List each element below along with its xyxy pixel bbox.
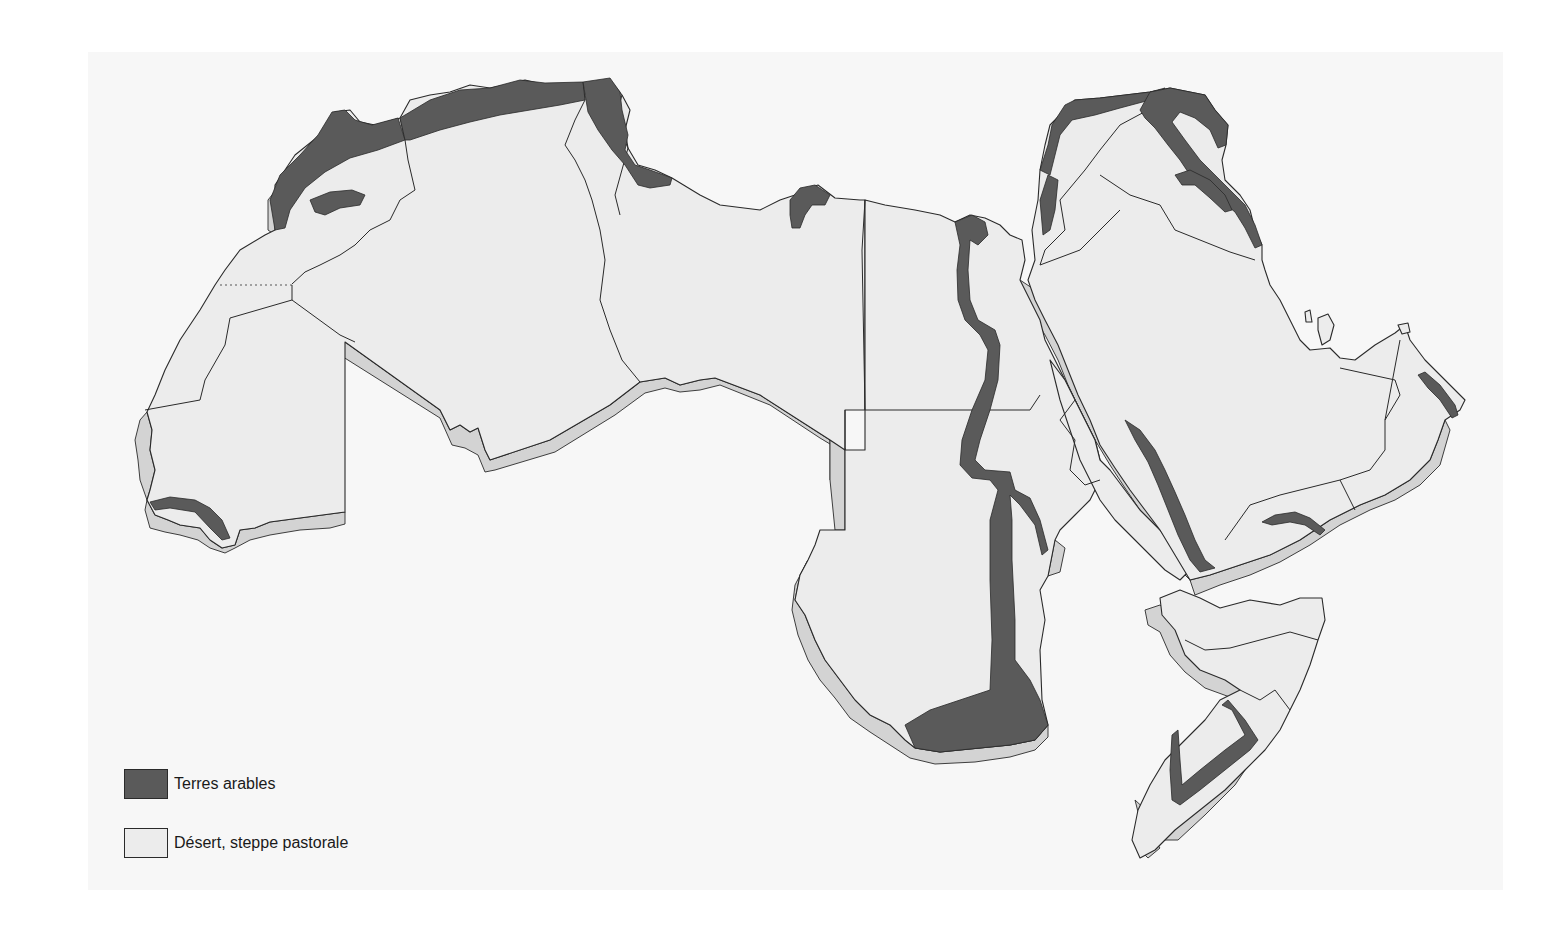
legend: Terres arables Désert, steppe pastorale xyxy=(124,768,348,886)
desert-swatch xyxy=(124,828,168,858)
legend-label-desert: Désert, steppe pastorale xyxy=(174,834,348,852)
region-maghreb xyxy=(147,80,865,548)
arable-swatch xyxy=(124,769,168,799)
legend-label-arable: Terres arables xyxy=(174,775,275,793)
legend-item-desert: Désert, steppe pastorale xyxy=(124,827,348,859)
region-arabia xyxy=(1028,88,1465,580)
island-bahrain xyxy=(1305,310,1312,322)
peninsula-qatar xyxy=(1318,314,1334,345)
legend-item-arable: Terres arables xyxy=(124,768,348,800)
